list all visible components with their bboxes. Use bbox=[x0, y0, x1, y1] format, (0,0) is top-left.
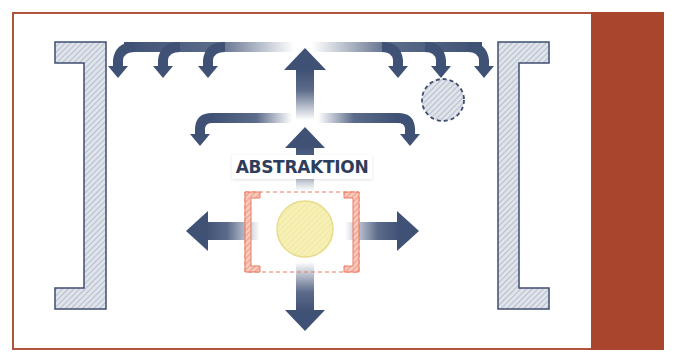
abstraction-diagram bbox=[0, 0, 675, 361]
dashed-circle bbox=[422, 79, 464, 121]
side-panel bbox=[591, 12, 664, 350]
mid-bar-right bbox=[318, 113, 398, 123]
mid-bar-left bbox=[212, 113, 292, 123]
abstraction-label: ABSTRAKTION bbox=[232, 155, 372, 179]
core-circle bbox=[277, 201, 333, 257]
frame bbox=[13, 13, 663, 349]
